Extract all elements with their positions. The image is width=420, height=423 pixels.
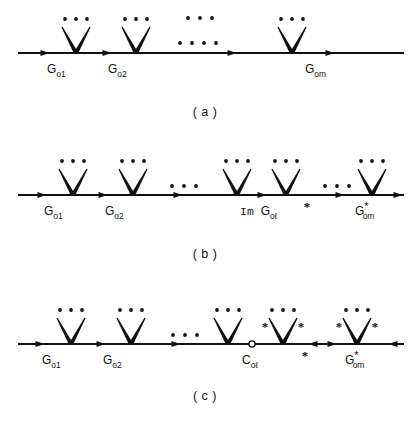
vertex-v-c-2 — [116, 308, 145, 345]
ellipsis-dot — [194, 184, 198, 188]
vertex-dots-dot — [63, 17, 67, 21]
label-base: G — [261, 204, 270, 218]
vertex-v-a-1 — [61, 17, 90, 54]
ellipsis-dot — [182, 184, 186, 188]
vertex-dots-dot — [140, 308, 144, 312]
ellipsis-dot — [323, 184, 327, 188]
panel-c-line-arrow — [172, 341, 181, 347]
vertex-dots-dot — [215, 308, 219, 312]
vertex-v-c-4: ** — [262, 308, 305, 345]
label-base: G — [305, 62, 314, 76]
label-lbl-c-3: Coℓ — [242, 353, 258, 370]
vertex-dots-dot — [58, 308, 62, 312]
vertex-leg-right — [74, 27, 90, 54]
vertex-dots-dot — [355, 308, 359, 312]
label-lbl-c-2: Go2 — [103, 353, 122, 370]
vertex-dots-dot — [281, 308, 285, 312]
vertex-dots-dot — [129, 308, 133, 312]
ellipsis-dot — [190, 41, 194, 45]
label-subscript: om — [363, 211, 375, 221]
label-base: G — [44, 204, 53, 218]
vertex-dots-dot — [118, 308, 122, 312]
baseline-star-star-b-line: * — [304, 199, 311, 214]
vertex-v-a-2 — [121, 17, 150, 54]
vertex-dots-dot — [292, 308, 296, 312]
vertex-dots-dot — [301, 17, 305, 21]
panel-b-line-arrow — [336, 192, 345, 198]
label-base: G — [42, 353, 51, 367]
panel-b: *Go1Go2Im GoℓG*om( b ) — [18, 159, 404, 261]
panel-a: Go1Go2Gom( a ) — [18, 16, 404, 119]
panel-b-caption: ( b ) — [193, 247, 218, 261]
label-subscript: o1 — [51, 360, 61, 370]
vertex-v-b-1 — [58, 159, 87, 196]
vertex-leg-right — [281, 318, 297, 345]
ellipsis-dot — [171, 333, 175, 337]
ellipsis-dot — [214, 41, 218, 45]
vertex-leg-right — [131, 169, 147, 196]
vertex-dots-dot — [226, 308, 230, 312]
label-base: C — [242, 353, 251, 367]
panel-c-line-arrow — [389, 341, 398, 347]
vertex-dots-dot — [370, 159, 374, 163]
vertex-leg-star: * — [262, 319, 269, 334]
ellipsis-dot — [170, 184, 174, 188]
vertex-dots-dot — [74, 17, 78, 21]
vertex-v-b-5 — [357, 159, 386, 196]
vertex-v-b-3 — [222, 159, 251, 196]
vertex-dots-dot — [246, 159, 250, 163]
label-lbl-b-4: G*om — [355, 200, 374, 221]
label-base: G — [105, 204, 114, 218]
panel-a-line-arrow — [326, 50, 335, 56]
label-subscript: o2 — [112, 360, 122, 370]
open-vertex-openv-c — [249, 341, 255, 347]
vertex-dots-dot — [71, 159, 75, 163]
vertex-leg-right — [355, 318, 371, 345]
label-base: G — [103, 353, 112, 367]
vertex-leg-star: * — [372, 319, 379, 334]
label-subscript: o2 — [114, 211, 124, 221]
vertex-leg-left — [277, 27, 293, 54]
figure-root: Go1Go2Gom( a )*Go1Go2Im GoℓG*om( b )****… — [0, 0, 420, 423]
label-subscript: o2 — [117, 69, 127, 79]
vertex-v-a-3 — [277, 17, 306, 54]
vertex-dots-dot — [235, 159, 239, 163]
panel-c-caption: ( c ) — [193, 389, 217, 403]
label-subscript: oℓ — [251, 360, 259, 370]
label-lbl-a-3: Gom — [305, 62, 326, 79]
label-subscript: o1 — [56, 69, 66, 79]
label-subscript: om — [314, 69, 326, 79]
vertex-dots-dot — [131, 159, 135, 163]
vertex-dots-dot — [344, 308, 348, 312]
vertex-dots-dot — [142, 159, 146, 163]
vertex-dots-dot — [295, 159, 299, 163]
label-lbl-b-3: Im Goℓ — [240, 204, 278, 221]
panel-a-line-arrow — [228, 50, 237, 56]
vertex-leg-left — [61, 27, 77, 54]
vertex-dots-dot — [60, 159, 64, 163]
label-lbl-b-1: Go1 — [44, 204, 63, 221]
vertex-dots-dot — [270, 308, 274, 312]
panel-a-line-arrow — [41, 50, 50, 56]
ellipsis-dot — [186, 16, 190, 20]
vertex-v-b-4 — [271, 159, 300, 196]
ellipsis-dot — [178, 41, 182, 45]
ellipsis-dot — [195, 333, 199, 337]
label-subscript: o1 — [53, 211, 63, 221]
label-lbl-a-2: Go2 — [108, 62, 127, 79]
label-base: G — [47, 62, 56, 76]
label-prefix: Im — [240, 205, 261, 218]
panel-b-line-arrow — [99, 192, 108, 198]
label-subscript: oℓ — [270, 211, 278, 221]
vertex-leg-right — [129, 318, 145, 345]
label-lbl-c-4: G*om — [345, 349, 364, 370]
vertex-leg-left — [271, 169, 287, 196]
vertex-dots-dot — [134, 17, 138, 21]
vertex-leg-right — [290, 27, 306, 54]
vertex-leg-star: * — [298, 319, 305, 334]
label-base: G — [108, 62, 117, 76]
vertex-dots-dot — [69, 308, 73, 312]
vertex-leg-left — [121, 27, 137, 54]
vertex-leg-left — [58, 169, 74, 196]
vertex-leg-right — [370, 169, 386, 196]
